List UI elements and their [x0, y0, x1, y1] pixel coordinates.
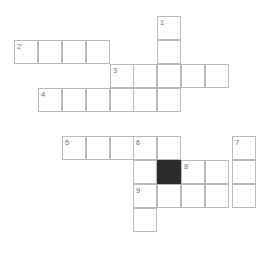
- crossword-cell[interactable]: [110, 88, 134, 112]
- crossword-cell[interactable]: [38, 40, 62, 64]
- crossword-cell[interactable]: [232, 160, 256, 184]
- cell-number-4: 4: [41, 90, 45, 99]
- crossword-cell[interactable]: [181, 64, 205, 88]
- crossword-cell[interactable]: 2: [14, 40, 38, 64]
- crossword-cell[interactable]: [157, 184, 181, 208]
- cell-number-6: 6: [136, 138, 140, 147]
- crossword-cell[interactable]: [62, 88, 86, 112]
- crossword-cell[interactable]: [157, 40, 181, 64]
- crossword-cell[interactable]: [133, 160, 157, 184]
- crossword-cell[interactable]: [133, 64, 157, 88]
- crossword-cell[interactable]: [86, 40, 110, 64]
- crossword-puzzle: 123456789: [0, 0, 273, 254]
- crossword-cell[interactable]: [157, 64, 181, 88]
- crossword-cell[interactable]: [157, 88, 181, 112]
- crossword-cell[interactable]: [86, 136, 110, 160]
- cell-number-5: 5: [65, 138, 69, 147]
- crossword-block-cell: [157, 160, 181, 184]
- crossword-cell[interactable]: 3: [110, 64, 134, 88]
- crossword-cell[interactable]: 6: [133, 136, 157, 160]
- cell-number-1: 1: [160, 18, 164, 27]
- crossword-cell[interactable]: [205, 64, 229, 88]
- crossword-cell[interactable]: 9: [133, 184, 157, 208]
- crossword-cell[interactable]: [157, 136, 181, 160]
- crossword-cell[interactable]: [86, 88, 110, 112]
- crossword-cell[interactable]: 5: [62, 136, 86, 160]
- crossword-cell[interactable]: [133, 88, 157, 112]
- crossword-cell[interactable]: 7: [232, 136, 256, 160]
- crossword-cell[interactable]: [205, 184, 229, 208]
- cell-number-8: 8: [184, 162, 188, 171]
- cell-number-3: 3: [113, 66, 117, 75]
- crossword-cell[interactable]: [133, 208, 157, 232]
- cell-number-7: 7: [235, 138, 239, 147]
- crossword-grid[interactable]: 123456789: [0, 0, 273, 254]
- crossword-cell[interactable]: 8: [181, 160, 205, 184]
- crossword-cell[interactable]: [110, 136, 134, 160]
- crossword-cell[interactable]: [205, 160, 229, 184]
- crossword-cell[interactable]: [62, 40, 86, 64]
- crossword-cell[interactable]: 1: [157, 16, 181, 40]
- crossword-cell[interactable]: 4: [38, 88, 62, 112]
- crossword-cell[interactable]: [181, 184, 205, 208]
- cell-number-9: 9: [136, 186, 140, 195]
- crossword-cell[interactable]: [232, 184, 256, 208]
- cell-number-2: 2: [17, 42, 21, 51]
